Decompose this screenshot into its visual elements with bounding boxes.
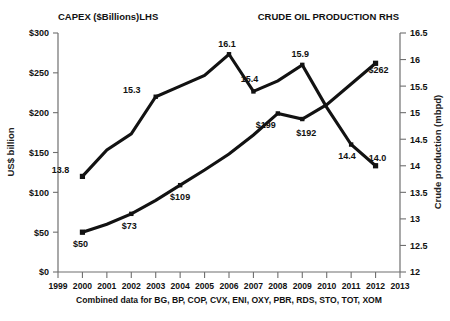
data-point-marker xyxy=(178,183,182,187)
x-tick-label: 2006 xyxy=(219,281,238,291)
data-point-marker xyxy=(349,142,353,146)
x-ticks: 1999200020012002200320042005200620072008… xyxy=(48,272,409,291)
y-left-tick-label: $150 xyxy=(29,148,49,158)
capex-series-title: CAPEX ($Billions)LHS xyxy=(58,11,158,22)
data-point-label: 15.3 xyxy=(123,85,141,95)
data-point-label: 15.9 xyxy=(292,49,310,59)
y-right-tick-label: 14.5 xyxy=(410,135,428,145)
data-point-marker xyxy=(276,111,280,115)
x-tick-label: 2004 xyxy=(171,281,190,291)
x-tick-label: 2009 xyxy=(293,281,312,291)
data-point-label: $109 xyxy=(170,192,190,202)
x-tick-label: 2003 xyxy=(146,281,165,291)
y-axis-left: $0$50$100$150$200$250$300 US$ billion xyxy=(5,28,58,277)
y-right-tick-label: 15 xyxy=(410,108,420,118)
y-left-axis-title: US$ billion xyxy=(5,127,16,176)
x-tick-label: 2005 xyxy=(195,281,214,291)
y-right-tick-label: 12 xyxy=(410,267,420,277)
data-point-label: 14.4 xyxy=(338,151,356,161)
y-left-tick-label: $0 xyxy=(39,267,49,277)
y-right-ticks: 1212.51313.51414.51515.51616.5 xyxy=(400,28,428,277)
x-axis: 1999200020012002200320042005200620072008… xyxy=(48,272,409,291)
crude-production-line xyxy=(82,54,375,176)
y-left-tick-label: $250 xyxy=(29,68,49,78)
series-layer xyxy=(80,52,378,235)
x-tick-label: 2002 xyxy=(122,281,141,291)
x-tick-label: 2012 xyxy=(366,281,385,291)
y-right-tick-label: 15.5 xyxy=(410,82,428,92)
x-tick-label: 2010 xyxy=(317,281,336,291)
data-point-marker xyxy=(80,174,84,178)
y-right-tick-label: 16.5 xyxy=(410,28,428,38)
data-point-marker xyxy=(300,63,304,67)
data-point-marker xyxy=(80,230,84,234)
data-point-label: 16.1 xyxy=(218,39,236,49)
x-tick-label: 2011 xyxy=(342,281,361,291)
y-left-tick-label: $200 xyxy=(29,108,49,118)
data-point-marker xyxy=(129,212,133,216)
y-right-tick-label: 16 xyxy=(410,55,420,65)
data-point-marker xyxy=(373,164,377,168)
data-labels-layer: $50$73$109$199$192$26213.815.316.115.415… xyxy=(52,39,389,249)
crude-series-title: CRUDE OIL PRODUCTION RHS xyxy=(258,11,399,22)
data-point-label: 14.0 xyxy=(369,153,387,163)
y-right-tick-label: 13.5 xyxy=(410,188,428,198)
data-point-marker xyxy=(154,95,158,99)
data-point-marker xyxy=(227,52,231,56)
chart-container: CAPEX ($Billions)LHS CRUDE OIL PRODUCTIO… xyxy=(0,0,450,321)
data-point-label: $192 xyxy=(296,128,316,138)
y-right-tick-label: 14 xyxy=(410,161,420,171)
y-left-tick-label: $300 xyxy=(29,28,49,38)
x-tick-label: 2000 xyxy=(73,281,92,291)
chart-footnote: Combined data for BG, BP, COP, CVX, ENI,… xyxy=(76,295,382,305)
data-point-label: $73 xyxy=(122,221,137,231)
data-point-marker xyxy=(300,117,304,121)
data-point-label: $262 xyxy=(369,65,389,75)
x-tick-label: 2001 xyxy=(97,281,116,291)
data-point-label: 15.4 xyxy=(241,74,259,84)
data-point-label: 13.8 xyxy=(52,165,70,175)
y-left-tick-label: $100 xyxy=(29,188,49,198)
y-left-tick-label: $50 xyxy=(34,228,49,238)
x-tick-label: 2007 xyxy=(244,281,263,291)
combined-capex-crude-chart: CAPEX ($Billions)LHS CRUDE OIL PRODUCTIO… xyxy=(0,0,450,321)
x-tick-label: 2008 xyxy=(268,281,287,291)
y-axis-right: 1212.51313.51414.51515.51616.5 Crude pro… xyxy=(400,28,443,277)
x-tick-label: 1999 xyxy=(48,281,67,291)
y-right-tick-label: 12.5 xyxy=(410,241,428,251)
x-tick-label: 2013 xyxy=(390,281,409,291)
y-left-ticks: $0$50$100$150$200$250$300 xyxy=(29,28,58,277)
data-point-marker xyxy=(251,89,255,93)
data-point-label: $199 xyxy=(256,120,276,130)
y-right-axis-title: Crude production (mbpd) xyxy=(432,95,443,210)
y-right-tick-label: 13 xyxy=(410,214,420,224)
data-point-label: $50 xyxy=(73,239,88,249)
